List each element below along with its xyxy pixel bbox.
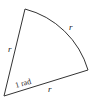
bottom-radius-label: r [48, 84, 52, 94]
arc-curve [25, 9, 88, 70]
arc-label: r [69, 22, 73, 32]
radian-sector-diagram: r r r 1 rad [0, 0, 97, 99]
left-radius-label: r [8, 44, 12, 54]
